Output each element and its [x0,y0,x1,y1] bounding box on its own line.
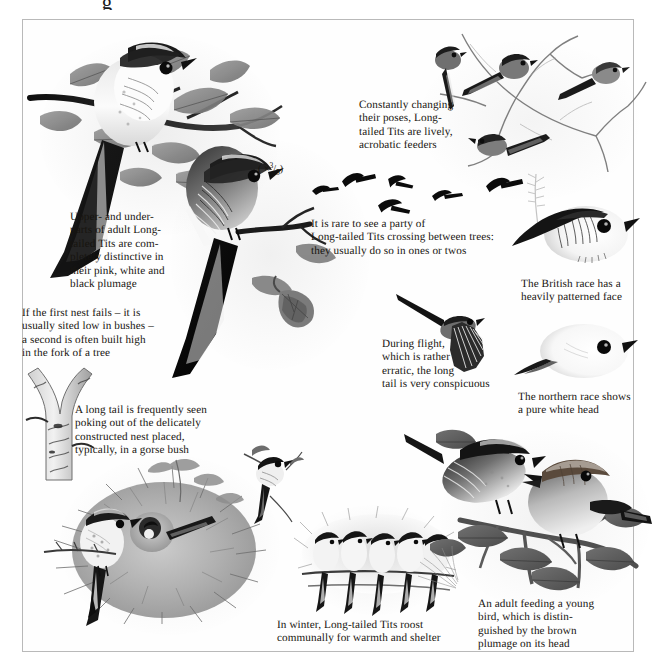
figure-head-british [508,196,648,268]
caption-plumage: Upper- and under- parts of adult Long- t… [70,211,200,291]
plate-page: g [0,0,652,666]
caption-long-tail-nest: A long tail is frequently seen poking ou… [75,404,275,458]
figure-falling-leaf [258,272,338,344]
scale-open: ( × [258,163,269,174]
caption-northern-race: The northern race shows a pure white hea… [518,391,650,418]
caption-during-flight: During flight, which is rather erratic, … [382,338,517,392]
caption-winter-roost: In winter, Long-tailed Tits roost commun… [277,619,492,646]
caption-nest-site: If the first nest fails – it is usually … [22,307,202,361]
figure-feeding-pair [428,424,648,604]
page-top-glyph: g [96,0,118,10]
figure-grass-tuft [416,540,460,590]
caption-party-crossing: It is rare to see a party of Long-tailed… [311,218,511,258]
figure-gorse-nest [44,440,274,625]
caption-adult-feeding: An adult feeding a young bird, which is … [478,598,638,652]
figure-flying-silhouettes [300,165,530,220]
scale-annotation: ( ×3/5) [258,161,283,177]
caption-poses: Constantly changing their poses, Long- t… [359,99,479,153]
figure-head-northern [508,315,648,383]
scale-numerator: 3 [269,161,273,170]
caption-british-race: The British race has a heavily patterned… [521,278,649,305]
scale-close: ) [280,163,283,174]
